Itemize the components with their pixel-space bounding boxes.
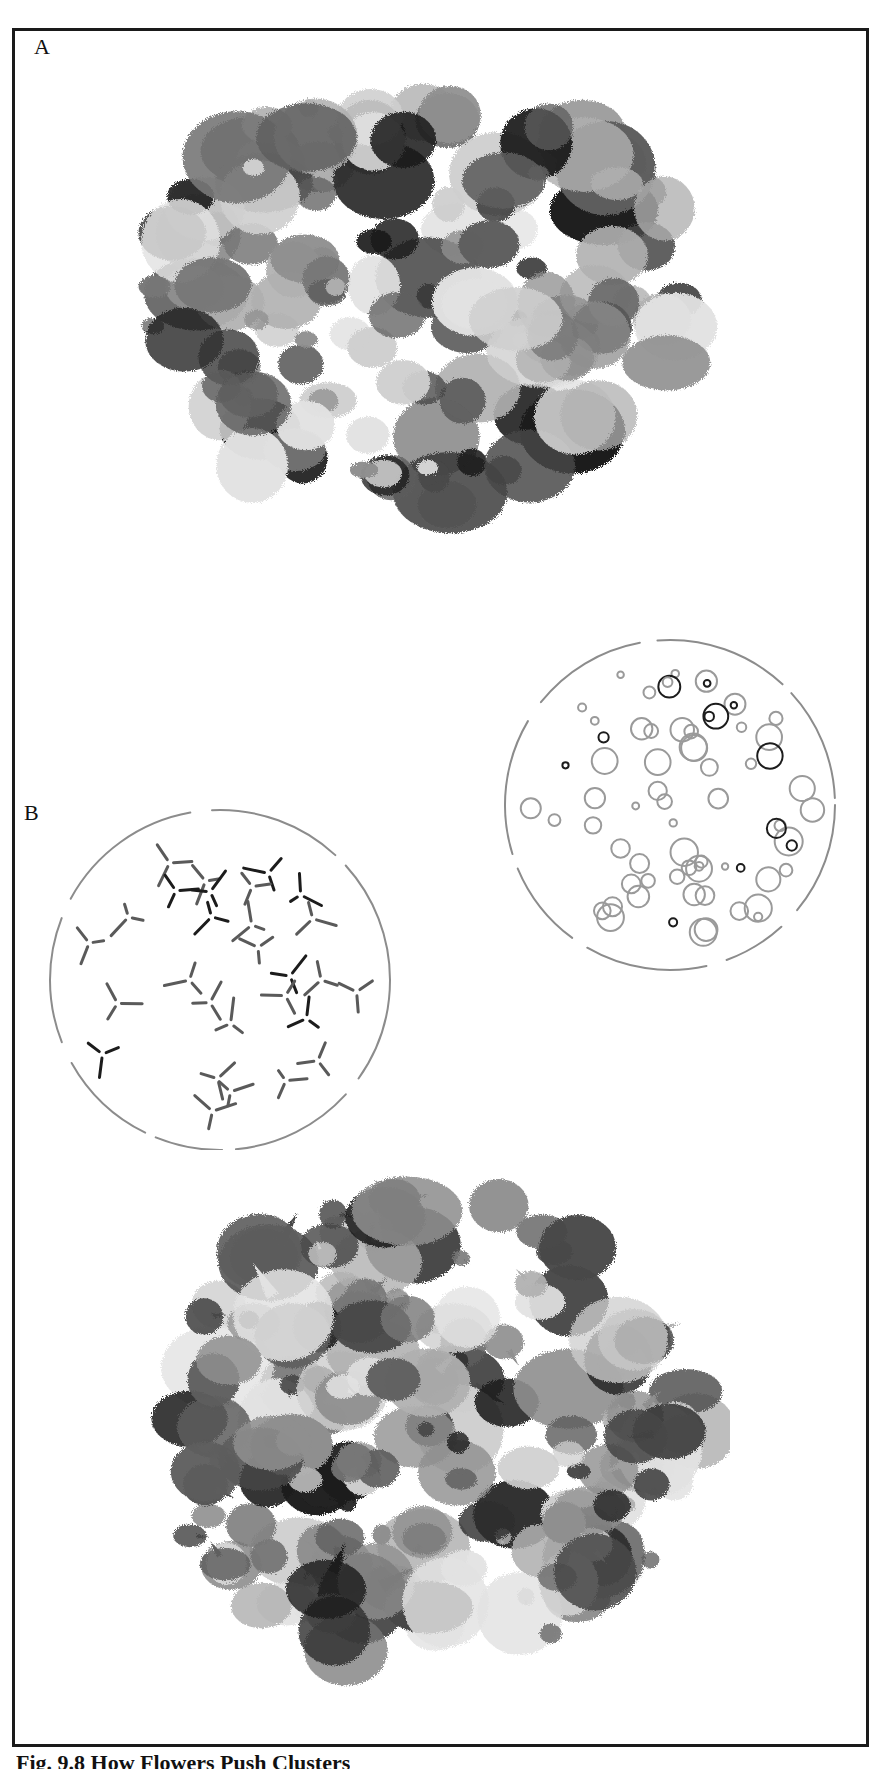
panel-b-watercolor-cluster bbox=[130, 1170, 730, 1690]
panel-a-watercolor-cluster bbox=[120, 60, 720, 540]
panel-b-ring-diagram bbox=[470, 620, 870, 980]
figure-caption: Fig. 9.8 How Flowers Push Clusters bbox=[16, 1752, 350, 1769]
panel-b-stroke-diagram bbox=[30, 790, 410, 1150]
panel-label-a: A bbox=[34, 34, 50, 60]
